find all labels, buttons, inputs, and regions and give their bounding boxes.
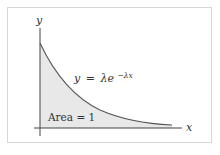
curve-equation: y = λe −λx <box>73 71 133 85</box>
area-label: Area = 1 <box>47 111 95 123</box>
x-axis-label: x <box>186 121 193 134</box>
y-axis-label: y <box>35 14 43 27</box>
exponential-density-diagram: y x y = λe −λx Area = 1 <box>0 0 220 155</box>
